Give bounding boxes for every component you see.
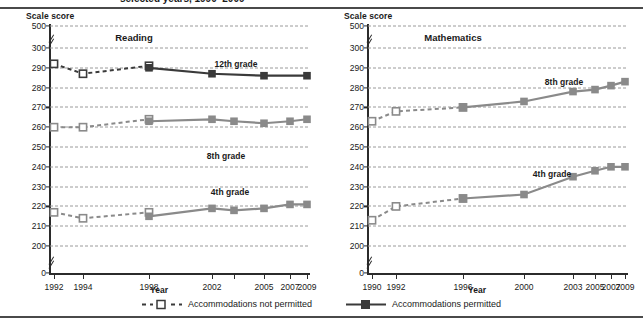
- y-tick-mark: [364, 272, 368, 273]
- data-point-marker: [50, 124, 57, 131]
- data-point-marker: [621, 78, 629, 86]
- x-axis-title: Year: [362, 285, 592, 295]
- report-title-cropped: selected years, 1990–2009: [0, 0, 643, 7]
- data-point-marker: [260, 205, 268, 213]
- series-layer: [368, 24, 626, 262]
- data-point-marker: [286, 117, 294, 125]
- x-tick-label: 2009: [298, 282, 317, 292]
- x-tick-mark: [264, 273, 265, 279]
- legend-label-not-permitted: Accommodations not permitted: [188, 299, 312, 309]
- data-point-marker: [459, 195, 467, 203]
- data-point-marker: [145, 64, 153, 72]
- data-point-marker: [208, 205, 216, 213]
- data-point-marker: [303, 201, 311, 209]
- data-point-marker: [303, 115, 311, 123]
- data-point-marker: [208, 70, 216, 78]
- y-tick-label: 500: [32, 22, 46, 30]
- x-tick-label: 2009: [616, 282, 635, 292]
- figure-legend: Accommodations not permitted Accommodati…: [0, 296, 643, 312]
- data-point-marker: [208, 115, 216, 123]
- series-line: [54, 64, 149, 74]
- series-layer: [50, 24, 308, 262]
- y-tick-label: 200: [350, 242, 364, 250]
- y-tick-label: 230: [350, 183, 364, 191]
- y-tick-label: 250: [32, 143, 46, 151]
- data-point-marker: [591, 167, 599, 175]
- y-tick-mark: [46, 272, 50, 273]
- y-tick-label: 210: [32, 222, 46, 230]
- x-tick-mark: [83, 273, 84, 279]
- x-tick-mark: [595, 273, 596, 279]
- x-axis-title: Year: [44, 285, 274, 295]
- y-tick-label: 210: [350, 222, 364, 230]
- data-point-marker: [392, 203, 399, 210]
- x-tick-mark: [396, 273, 397, 279]
- data-point-marker: [50, 209, 57, 216]
- x-tick-mark: [372, 273, 373, 279]
- y-tick-label: 240: [32, 163, 46, 171]
- data-point-marker: [607, 82, 615, 90]
- plot-area-mathematics: 5003002902802702602502402302202102000199…: [368, 24, 626, 262]
- series-annotation: 12th grade: [215, 59, 258, 69]
- x-tick-mark: [149, 273, 150, 279]
- figure-page: selected years, 1990–2009 Scale score Re…: [0, 0, 643, 320]
- y-tick-label: 270: [32, 103, 46, 111]
- data-point-marker: [230, 207, 238, 215]
- x-axis-line: [49, 273, 310, 275]
- data-point-marker: [79, 70, 86, 77]
- data-point-marker: [621, 163, 629, 171]
- y-tick-label: 200: [32, 242, 46, 250]
- x-tick-mark: [290, 273, 291, 279]
- y-axis-title: Scale score: [26, 11, 74, 21]
- y-tick-label: 300: [350, 44, 364, 52]
- x-axis-line: [367, 273, 628, 275]
- y-tick-label: 290: [350, 64, 364, 72]
- data-point-marker: [260, 119, 268, 127]
- dashed-open-square-icon: [142, 299, 182, 310]
- data-point-marker: [145, 213, 153, 221]
- series-line: [372, 107, 463, 121]
- series-line: [149, 119, 307, 123]
- y-tick-label: 280: [350, 84, 364, 92]
- solid-filled-square-icon: [346, 299, 386, 310]
- chart-panel-reading: Scale score Reading 50030029028027026025…: [4, 11, 322, 291]
- data-point-marker: [459, 104, 467, 112]
- data-point-marker: [286, 201, 294, 209]
- data-point-marker: [260, 72, 268, 80]
- data-point-marker: [607, 163, 615, 171]
- y-tick-label: 270: [350, 103, 364, 111]
- x-tick-mark: [234, 273, 235, 279]
- y-tick-label: 260: [32, 123, 46, 131]
- top-rule: [0, 7, 643, 9]
- data-point-marker: [50, 60, 57, 67]
- legend-item-not-permitted: Accommodations not permitted: [142, 299, 312, 310]
- y-tick-label: 250: [350, 143, 364, 151]
- series-annotation: 4th grade: [533, 169, 571, 179]
- series-line: [149, 204, 307, 216]
- data-point-marker: [591, 86, 599, 94]
- x-tick-mark: [524, 273, 525, 279]
- x-tick-mark: [54, 273, 55, 279]
- x-tick-mark: [463, 273, 464, 279]
- data-point-marker: [145, 117, 153, 125]
- data-point-marker: [520, 98, 528, 106]
- x-tick-mark: [212, 273, 213, 279]
- x-tick-mark: [611, 273, 612, 279]
- bottom-rule: [0, 316, 643, 318]
- y-tick-label: 230: [32, 183, 46, 191]
- plot-area-reading: 5003002902802702602502402302202102000199…: [50, 24, 308, 262]
- data-point-marker: [392, 108, 399, 115]
- y-tick-label: 240: [350, 163, 364, 171]
- series-annotation: 8th grade: [207, 151, 245, 161]
- y-tick-label: 290: [32, 64, 46, 72]
- data-point-marker: [569, 88, 577, 96]
- x-tick-mark: [625, 273, 626, 279]
- data-point-marker: [368, 217, 375, 224]
- data-point-marker: [230, 117, 238, 125]
- y-tick-label: 220: [32, 202, 46, 210]
- y-tick-label: 500: [350, 22, 364, 30]
- y-tick-label: 260: [350, 123, 364, 131]
- legend-label-permitted: Accommodations permitted: [392, 299, 501, 309]
- series-annotation: 8th grade: [545, 77, 583, 87]
- data-point-marker: [79, 215, 86, 222]
